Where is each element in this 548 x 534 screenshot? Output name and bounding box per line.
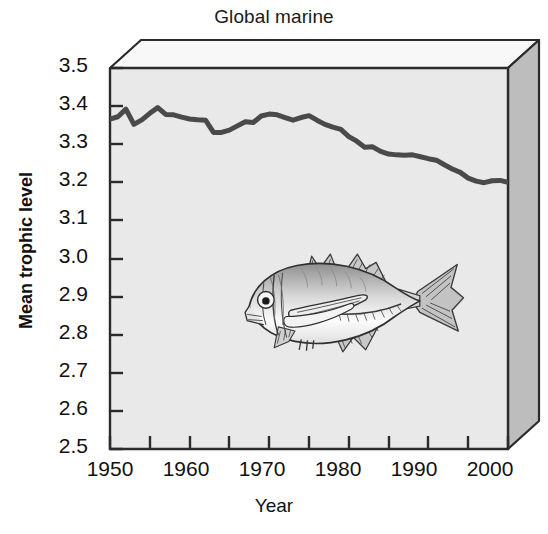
box-top-face <box>110 40 539 68</box>
chart-figure: Global marine Mean trophic level Year 3.… <box>0 0 548 534</box>
box-front-face <box>110 68 508 449</box>
box-right-face <box>508 40 539 449</box>
plot-area <box>0 0 548 534</box>
